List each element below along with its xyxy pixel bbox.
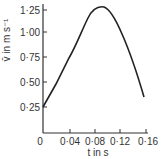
y-tick-label: 0·75 [20,52,40,63]
y-tick-label: 0·50 [20,77,40,88]
y-axis-label: v̄ in m s⁻¹ [1,18,12,61]
y-tick-label: 1·25 [20,5,40,16]
y-tick-label: 1·00 [20,27,40,38]
x-tick-label: 0·08 [85,136,105,147]
x-axis: 0 0·04 0·08 0·12 0·16 t in s [37,129,158,158]
x-tick-label: 0 [37,136,43,147]
x-tick-label: 0·12 [110,136,130,147]
velocity-curve [43,7,144,107]
y-axis: 1·25 1·00 0·75 0·50 0·25 v̄ in m s⁻¹ [1,4,47,133]
x-tick-label: 0·04 [60,136,80,147]
x-axis-label: t in s [87,147,108,158]
velocity-time-chart: 1·25 1·00 0·75 0·50 0·25 v̄ in m s⁻¹ 0 0… [0,0,163,159]
y-tick-label: 0·25 [20,102,40,113]
x-tick-label: 0·16 [138,136,158,147]
